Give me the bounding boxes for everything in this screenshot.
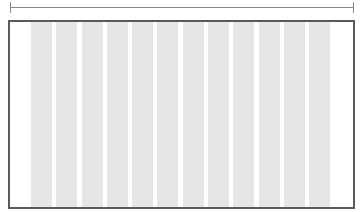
grid-column (82, 22, 103, 207)
grid-column (56, 22, 77, 207)
grid-column (208, 22, 229, 207)
grid-column (132, 22, 153, 207)
grid-column (183, 22, 204, 207)
grid-column (31, 22, 52, 207)
grid-column (309, 22, 330, 207)
grid-column (233, 22, 254, 207)
width-measure-tick-left (10, 2, 11, 13)
grid-column (259, 22, 280, 207)
grid-column (157, 22, 178, 207)
width-measure-tick-right (353, 2, 354, 13)
grid-column (107, 22, 128, 207)
column-grid (31, 22, 330, 207)
layout-frame (8, 20, 355, 209)
width-measure-line (10, 7, 354, 8)
grid-column (284, 22, 305, 207)
